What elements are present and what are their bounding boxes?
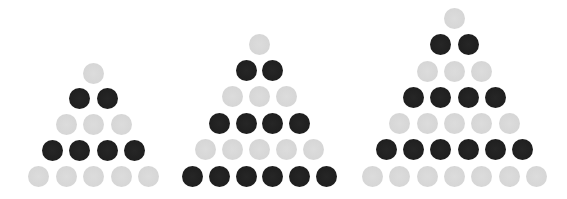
light-dot — [444, 113, 465, 134]
light-dot — [499, 113, 520, 134]
dark-dot — [430, 139, 451, 160]
light-dot — [471, 113, 492, 134]
dark-dot — [458, 139, 479, 160]
light-dot — [444, 8, 465, 29]
light-dot — [444, 61, 465, 82]
triangle-7-rows — [0, 0, 567, 199]
light-dot — [417, 166, 438, 187]
light-dot — [499, 166, 520, 187]
dark-dot — [512, 139, 533, 160]
light-dot — [362, 166, 383, 187]
light-dot — [389, 166, 410, 187]
light-dot — [417, 61, 438, 82]
light-dot — [444, 166, 465, 187]
dark-dot — [376, 139, 397, 160]
dark-dot — [403, 87, 424, 108]
light-dot — [417, 113, 438, 134]
dark-dot — [458, 34, 479, 55]
triangular-dot-figure — [0, 0, 567, 199]
light-dot — [389, 113, 410, 134]
dark-dot — [403, 139, 424, 160]
dark-dot — [430, 34, 451, 55]
dark-dot — [485, 139, 506, 160]
light-dot — [471, 166, 492, 187]
dark-dot — [430, 87, 451, 108]
light-dot — [471, 61, 492, 82]
dark-dot — [458, 87, 479, 108]
light-dot — [526, 166, 547, 187]
dark-dot — [485, 87, 506, 108]
